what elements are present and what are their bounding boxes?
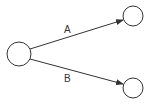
source-node — [7, 42, 31, 66]
edge-b-arrow — [30, 59, 123, 84]
diagram-svg: A B — [0, 0, 149, 105]
edge-label-a: A — [64, 24, 71, 35]
target-node-b — [123, 78, 143, 98]
edge-label-b: B — [64, 73, 71, 84]
diagram-canvas: A B — [0, 0, 149, 105]
edge-a-arrow — [30, 20, 123, 49]
target-node-a — [123, 6, 143, 26]
